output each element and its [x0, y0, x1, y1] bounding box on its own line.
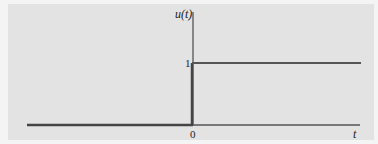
- y-tick-one: 1: [185, 57, 191, 69]
- step-function-chart: u(t) 1 0 t: [0, 0, 378, 144]
- y-axis-label: u(t): [175, 7, 192, 21]
- x-axis-label: t: [353, 127, 357, 141]
- x-tick-zero: 0: [190, 128, 196, 140]
